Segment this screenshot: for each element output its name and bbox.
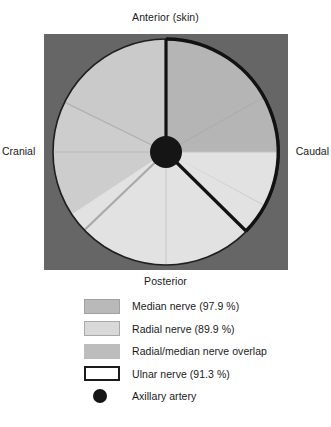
legend-item-axillary-artery: Axillary artery xyxy=(84,385,324,408)
legend-label-radial-nerve: Radial nerve (89.9 %) xyxy=(132,323,235,335)
orientation-label-anterior: Anterior (skin) xyxy=(0,11,331,23)
legend-label-median-nerve: Median nerve (97.9 %) xyxy=(132,300,239,312)
legend-item-ulnar-nerve: Ulnar nerve (91.3 %) xyxy=(84,363,324,386)
nerve-wheel-diagram xyxy=(44,34,288,270)
legend-swatch-cell xyxy=(84,366,132,381)
nerve-distribution-figure: Anterior (skin) Cranial Caudal xyxy=(0,0,331,427)
legend-swatch-cell xyxy=(84,344,132,359)
legend-item-radial-nerve: Radial nerve (89.9 %) xyxy=(84,318,324,341)
orientation-label-posterior: Posterior xyxy=(0,275,331,287)
legend-label-axillary-artery: Axillary artery xyxy=(132,390,196,402)
legend-swatch-cell xyxy=(84,321,132,336)
legend-swatch-cell xyxy=(84,389,132,403)
diagram-panel xyxy=(44,34,288,270)
legend-swatch-radial-nerve xyxy=(84,321,120,336)
legend-item-overlap: Radial/median nerve overlap xyxy=(84,340,324,363)
legend-swatch-ulnar-nerve xyxy=(84,366,120,381)
axillary-artery-center xyxy=(150,136,182,168)
legend-swatch-cell xyxy=(84,299,132,314)
legend: Median nerve (97.9 %) Radial nerve (89.9… xyxy=(84,295,324,408)
legend-swatch-median-nerve xyxy=(84,299,120,314)
legend-label-ulnar-nerve: Ulnar nerve (91.3 %) xyxy=(132,368,230,380)
legend-swatch-overlap xyxy=(84,344,120,359)
legend-swatch-axillary-artery xyxy=(93,389,107,403)
legend-label-overlap: Radial/median nerve overlap xyxy=(132,345,267,357)
orientation-label-cranial: Cranial xyxy=(2,145,46,157)
legend-item-median-nerve: Median nerve (97.9 %) xyxy=(84,295,324,318)
